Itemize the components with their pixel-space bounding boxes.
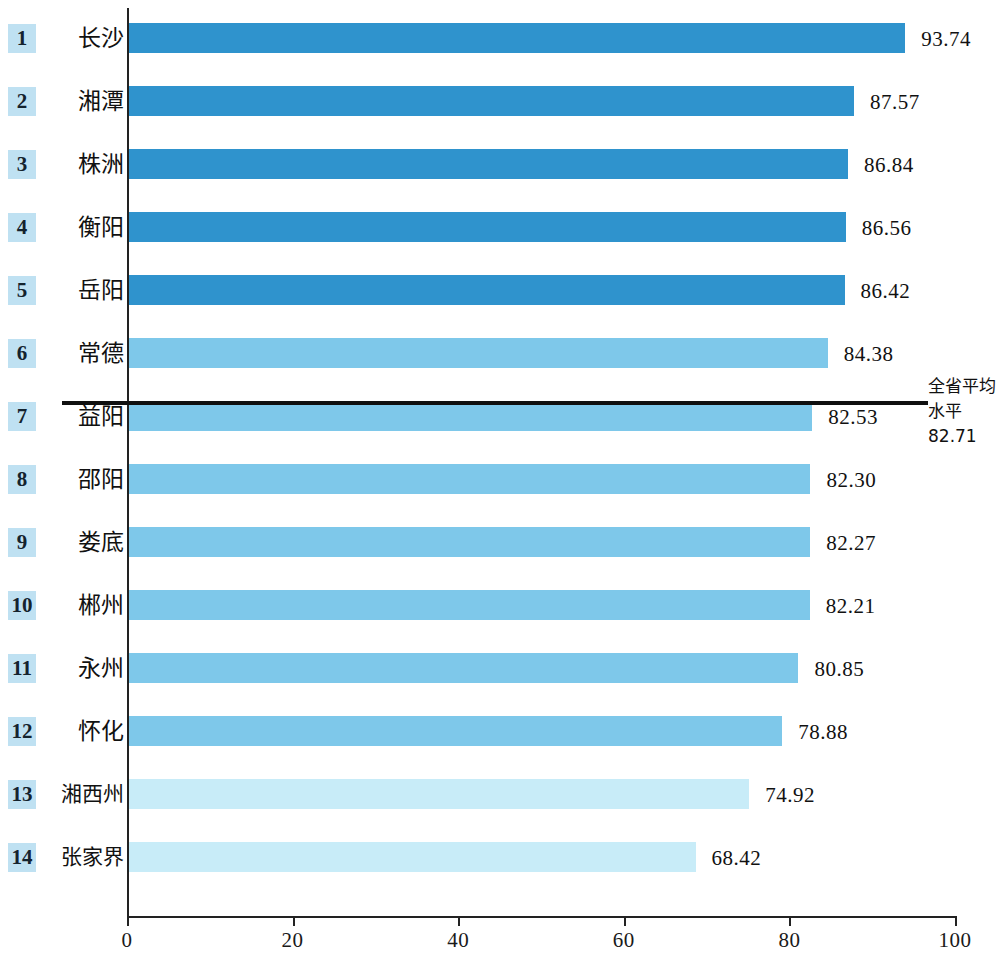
bar [129,275,845,305]
city-label: 株洲 [40,148,128,180]
rank-badge: 5 [8,276,36,305]
bar-value-label: 82.53 [828,403,878,431]
average-annotation-line1: 全省平均 [928,374,1005,399]
bar-value-label: 80.85 [814,655,864,683]
bar [129,527,810,557]
x-axis-tick-label: 100 [925,928,985,953]
bar-value-label: 78.88 [798,718,848,746]
bar-row: 6常德84.38 [0,323,1005,386]
x-axis-tick [624,916,626,926]
bar [129,338,828,368]
bar-value-label: 93.74 [921,25,971,53]
bar [129,779,749,809]
x-axis-tick [458,916,460,926]
bar [129,653,798,683]
bar-row: 3株洲86.84 [0,134,1005,197]
bar-row: 10郴州82.21 [0,575,1005,638]
x-axis-tick [789,916,791,926]
bar-value-label: 87.57 [870,88,920,116]
bar-row: 2湘潭87.57 [0,71,1005,134]
rank-badge: 11 [8,654,36,683]
x-axis-tick [127,916,129,926]
city-label: 张家界 [40,841,128,873]
bar [129,401,812,431]
x-axis-line [127,916,956,918]
city-label: 娄底 [40,526,128,558]
bar [129,23,905,53]
bar [129,212,846,242]
bar-row: 13湘西州74.92 [0,764,1005,827]
rank-badge: 3 [8,150,36,179]
x-axis-tick-label: 80 [759,928,819,953]
bar-value-label: 84.38 [844,340,894,368]
city-label: 湘潭 [40,85,128,117]
bar-value-label: 74.92 [765,781,815,809]
city-label: 衡阳 [40,211,128,243]
rank-badge: 13 [8,780,36,809]
x-axis-tick-label: 60 [594,928,654,953]
rank-badge: 14 [8,843,36,872]
city-label: 永州 [40,652,128,684]
city-label: 长沙 [40,22,128,54]
bar [129,86,854,116]
bar [129,842,696,872]
bar-value-label: 82.27 [826,529,876,557]
x-axis-tick-label: 0 [97,928,157,953]
rank-badge: 4 [8,213,36,242]
bar-row: 11永州80.85 [0,638,1005,701]
bar-row: 9娄底82.27 [0,512,1005,575]
bar-row: 4衡阳86.56 [0,197,1005,260]
bar [129,716,782,746]
bar-value-label: 82.30 [826,466,876,494]
x-axis-tick-label: 40 [428,928,488,953]
bar-row: 7益阳82.53 [0,386,1005,449]
x-axis-tick [955,916,957,926]
city-label: 怀化 [40,715,128,747]
bar-value-label: 82.21 [826,592,876,620]
x-axis-tick [293,916,295,926]
average-annotation-line2: 水平82.71 [928,399,1005,449]
rank-badge: 12 [8,717,36,746]
bar [129,149,848,179]
x-axis-tick-label: 20 [263,928,323,953]
rank-badge: 7 [8,402,36,431]
bar-row: 1长沙93.74 [0,8,1005,71]
rank-badge: 2 [8,87,36,116]
rank-badge: 9 [8,528,36,557]
city-label: 岳阳 [40,274,128,306]
bar-row: 14张家界68.42 [0,827,1005,890]
provincial-average-line [62,401,928,405]
rank-badge: 6 [8,339,36,368]
bar-row: 8邵阳82.30 [0,449,1005,512]
provincial-average-annotation: 全省平均 水平82.71 [928,374,1005,449]
rank-badge: 1 [8,24,36,53]
bar [129,464,810,494]
bar-value-label: 68.42 [712,844,762,872]
bar-value-label: 86.56 [862,214,912,242]
bar [129,590,810,620]
city-label: 郴州 [40,589,128,621]
bar-value-label: 86.42 [861,277,911,305]
bar-row: 12怀化78.88 [0,701,1005,764]
city-label: 湘西州 [40,778,128,810]
bar-row: 5岳阳86.42 [0,260,1005,323]
rank-badge: 10 [8,591,36,620]
horizontal-bar-chart: 1长沙93.742湘潭87.573株洲86.844衡阳86.565岳阳86.42… [0,0,1005,955]
city-label: 常德 [40,337,128,369]
bar-value-label: 86.84 [864,151,914,179]
rank-badge: 8 [8,465,36,494]
city-label: 邵阳 [40,463,128,495]
